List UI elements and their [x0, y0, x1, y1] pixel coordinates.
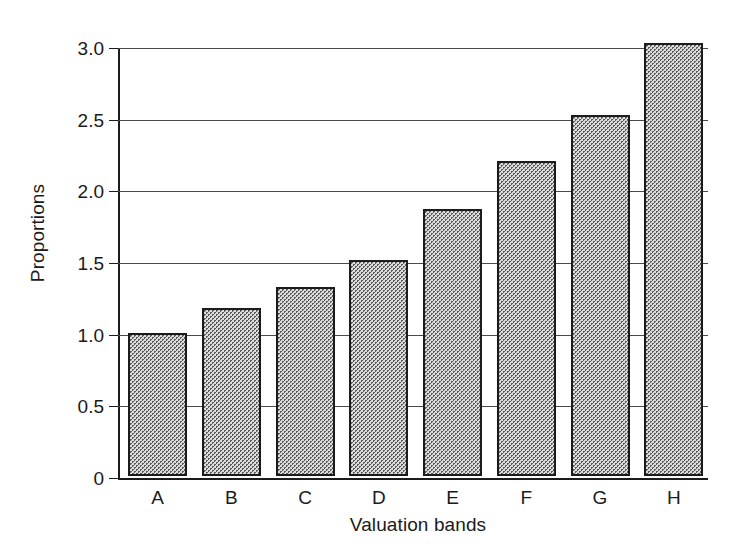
- y-tick-mark: [109, 120, 118, 121]
- x-tick-label-h: H: [644, 488, 704, 507]
- x-axis-line: [118, 478, 708, 480]
- bar-e: [423, 209, 482, 476]
- bar-d: [349, 260, 408, 476]
- y-tick-mark: [109, 48, 118, 49]
- x-tick-label-c: C: [275, 488, 335, 507]
- y-tick-label: 2.5: [42, 111, 104, 130]
- x-tick-label-g: G: [570, 488, 630, 507]
- x-tick-label-e: E: [423, 488, 483, 507]
- bar-h: [644, 43, 703, 476]
- x-tick-label-f: F: [496, 488, 556, 507]
- plot-area: 00.51.01.52.02.53.0 ABCDEFGH: [118, 48, 708, 478]
- gridline: [118, 48, 708, 49]
- x-tick-label-d: D: [349, 488, 409, 507]
- y-axis-title: Proportions: [27, 143, 49, 323]
- bar-c: [276, 287, 335, 476]
- y-tick-mark: [109, 191, 118, 192]
- y-tick-label: 3.0: [42, 39, 104, 58]
- bar-chart-figure: Proportions 00.51.01.52.02.53.0 ABCDEFGH…: [0, 0, 745, 554]
- bar-g: [571, 115, 630, 476]
- y-tick-mark: [109, 263, 118, 264]
- y-axis-line: [118, 48, 120, 480]
- y-tick-label: 2.0: [42, 182, 104, 201]
- y-tick-mark: [109, 335, 118, 336]
- bar-a: [128, 333, 187, 476]
- bar-b: [202, 308, 261, 476]
- y-tick-mark: [109, 406, 118, 407]
- y-tick-label: 1.0: [42, 326, 104, 345]
- x-tick-label-a: A: [128, 488, 188, 507]
- y-tick-label: 0: [42, 469, 104, 488]
- x-tick-label-b: B: [201, 488, 261, 507]
- y-tick-mark: [109, 478, 118, 479]
- bar-f: [497, 161, 556, 476]
- y-tick-label: 1.5: [42, 254, 104, 273]
- y-tick-label: 0.5: [42, 397, 104, 416]
- x-axis-title: Valuation bands: [128, 514, 708, 536]
